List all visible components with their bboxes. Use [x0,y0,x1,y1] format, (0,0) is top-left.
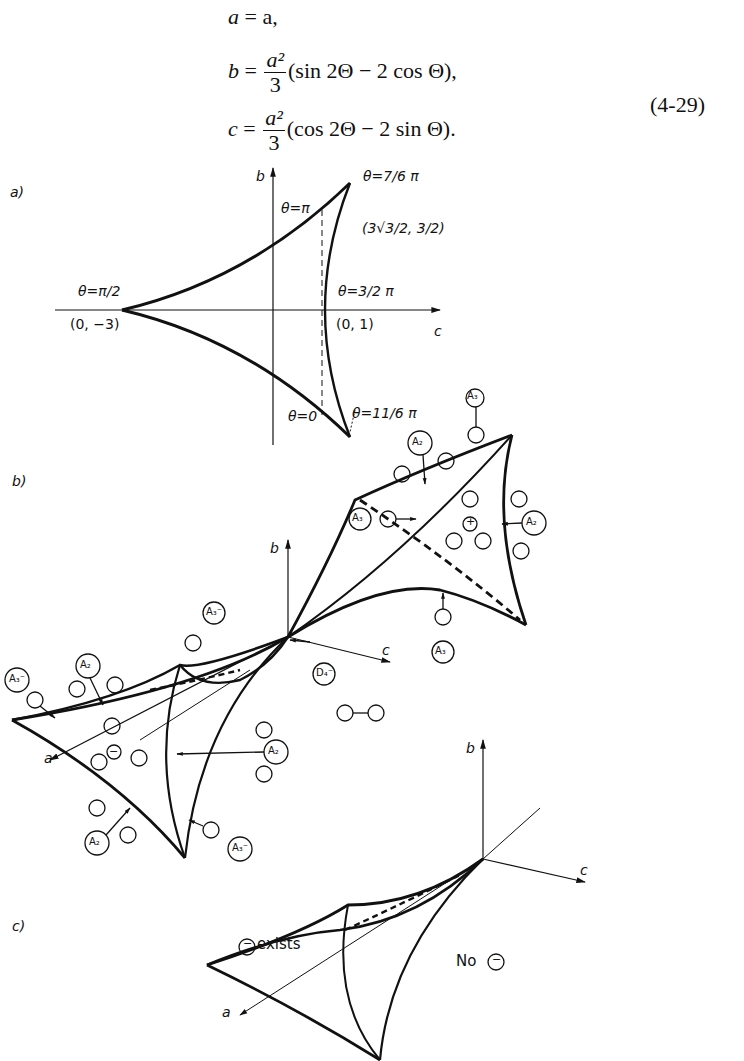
axis-c-label-b: c [382,642,390,658]
minus-sign-no: − [492,953,501,966]
label-a3-bottom: A₃ [435,645,446,656]
theta-pi-half: θ=π/2 [78,283,120,299]
label-a2-bottom: A₂ [89,836,100,847]
label-a3m-left: A₃⁻ [9,673,25,684]
label-a3m-top: A₃⁻ [206,606,222,617]
label-a2-top: A₂ [412,436,423,447]
axis-b-label-c: b [466,740,475,756]
axis-b-label-b: b [270,540,279,556]
label-a3m-bottom: A₃⁻ [232,842,248,853]
panel-c-label: c) [12,918,25,934]
no-label: No [456,952,476,970]
panel-b-label: b) [12,473,26,489]
minus-sign-exists: − [243,937,252,950]
label-a2-mid: A₂ [268,745,279,756]
exists-label: exists [257,935,301,953]
label-a3-left: A₃ [352,512,363,523]
theta-3-2: θ=3/2 π [338,283,394,299]
point-cusp-top: (3√3/2, 3/2) [362,220,445,236]
axis-a-label-c: a [222,1004,231,1020]
label-a2-left: A₂ [80,659,91,670]
label-a3-top: A₃ [467,390,478,401]
label-d4m: D₄⁻ [316,667,333,678]
point-right: (0, 1) [336,316,374,332]
theta-11-6: θ=11/6 π [352,405,417,421]
theta-pi: θ=π [281,200,310,216]
panel-a-label: a) [10,184,24,200]
label-plus: + [466,515,475,528]
axis-c-label-c: c [580,862,588,878]
label-minus: − [109,745,118,758]
point-left: (0, −3) [70,316,119,332]
theta-0: θ=0 [288,408,317,424]
label-a2-right: A₂ [526,516,537,527]
axis-c-label-a: c [434,323,442,339]
axis-a-label-b: a [44,750,53,766]
axis-b-label-a: b [256,168,265,184]
figure-drawing [0,0,744,1061]
theta-7-6: θ=7/6 π [363,168,419,184]
